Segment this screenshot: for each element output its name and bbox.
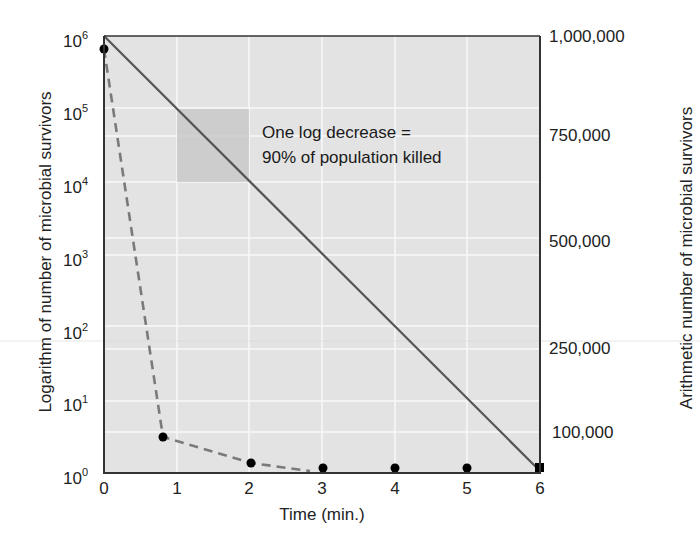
right-tick-label: 100,000 bbox=[552, 423, 613, 442]
left-tick-label: 100 bbox=[63, 466, 88, 488]
right-axis-ticks: 1,000,000 750,000 500,000 250,000 100,00… bbox=[549, 27, 625, 442]
left-tick-label: 102 bbox=[63, 321, 88, 343]
left-tick-label: 105 bbox=[63, 102, 88, 124]
data-point bbox=[159, 433, 168, 442]
right-tick-label: 500,000 bbox=[549, 232, 610, 251]
x-tick-label: 2 bbox=[244, 479, 253, 498]
data-point bbox=[391, 464, 400, 473]
right-tick-label: 1,000,000 bbox=[549, 27, 625, 46]
x-tick-label: 3 bbox=[317, 479, 326, 498]
x-axis-ticks: 0 1 2 3 4 5 6 bbox=[99, 479, 544, 498]
x-tick-label: 0 bbox=[99, 479, 108, 498]
annotation-line-1: One log decrease = bbox=[262, 123, 411, 142]
x-axis-title: Time (min.) bbox=[279, 505, 364, 524]
left-axis-ticks: 106 105 104 103 102 101 100 bbox=[63, 29, 88, 488]
left-axis-title: Logarithm of number of microbial survivo… bbox=[36, 91, 55, 412]
data-point bbox=[319, 464, 328, 473]
data-point bbox=[247, 459, 256, 468]
right-axis-title: Arithmetic number of microbial survivors bbox=[677, 107, 696, 409]
left-tick-label: 101 bbox=[63, 393, 88, 415]
x-tick-label: 4 bbox=[390, 479, 399, 498]
x-tick-label: 5 bbox=[462, 479, 471, 498]
survivor-curve-chart: One log decrease = 90% of population kil… bbox=[0, 0, 700, 552]
x-tick-label: 1 bbox=[172, 479, 181, 498]
left-tick-label: 106 bbox=[63, 29, 88, 51]
annotation-line-2: 90% of population killed bbox=[262, 148, 442, 167]
left-tick-label: 104 bbox=[63, 175, 88, 197]
right-tick-label: 250,000 bbox=[549, 339, 610, 358]
left-tick-label: 103 bbox=[63, 248, 88, 270]
data-point bbox=[463, 464, 472, 473]
right-tick-label: 750,000 bbox=[549, 126, 610, 145]
x-tick-label: 6 bbox=[535, 479, 544, 498]
